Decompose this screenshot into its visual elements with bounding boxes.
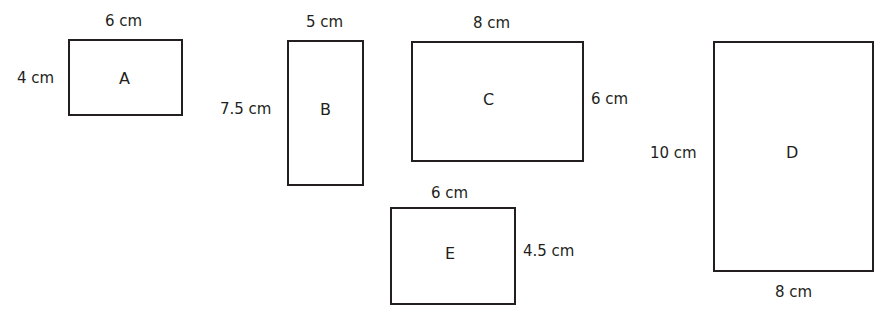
rectangle-d-width-label: 8 cm	[775, 283, 812, 301]
rectangle-a-height-label: 4 cm	[17, 69, 54, 87]
rectangle-a-name: A	[119, 70, 130, 88]
rectangle-b-height-label: 7.5 cm	[220, 100, 271, 118]
rectangle-a-width-label: 6 cm	[105, 12, 142, 30]
rectangle-d-height-label: 10 cm	[650, 144, 697, 162]
rectangle-c-width-label: 8 cm	[473, 14, 510, 32]
rectangle-c	[411, 41, 584, 162]
rectangle-b-width-label: 5 cm	[306, 13, 343, 31]
rectangle-d-name: D	[786, 144, 798, 162]
rectangle-e-name: E	[445, 245, 455, 263]
rectangle-b-name: B	[320, 101, 331, 119]
rectangle-e-width-label: 6 cm	[431, 184, 468, 202]
rectangle-e-height-label: 4.5 cm	[523, 242, 574, 260]
rectangle-c-height-label: 6 cm	[591, 90, 628, 108]
rectangle-c-name: C	[483, 91, 494, 109]
